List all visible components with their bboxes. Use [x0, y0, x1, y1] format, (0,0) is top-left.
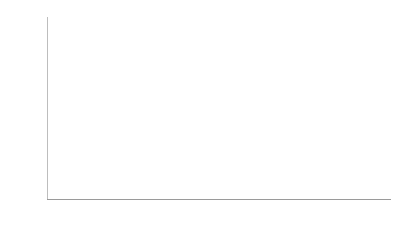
plot-area — [47, 17, 391, 200]
percentile-band-and-average — [47, 17, 391, 200]
concentration-trend-chart — [0, 0, 402, 246]
